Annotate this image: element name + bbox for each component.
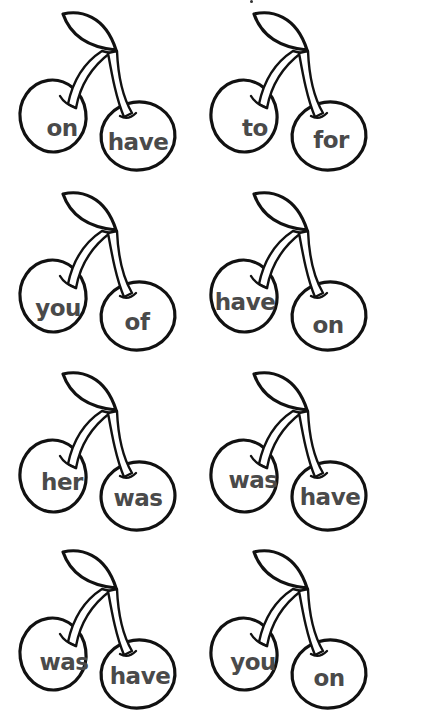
right-cherry-word: have <box>300 486 361 509</box>
left-cherry-word: was <box>40 651 89 674</box>
cherry-icon <box>0 0 200 180</box>
right-cherry-word: of <box>125 311 150 334</box>
left-cherry-word: you <box>35 297 81 320</box>
right-cherry-word: have <box>108 131 169 154</box>
left-cherry-word: you <box>230 651 276 674</box>
left-cherry-word: on <box>46 117 77 140</box>
cherry-pair-2: to for <box>191 0 391 180</box>
cherry-pair-7: was have <box>0 538 200 718</box>
cherry-pair-1: on have <box>0 0 200 180</box>
cherry-pair-4: have on <box>191 180 391 360</box>
cherry-icon <box>191 180 391 360</box>
left-cherry-word: to <box>242 117 268 140</box>
cherry-icon <box>0 360 200 540</box>
left-cherry-word: have <box>215 291 276 314</box>
cherry-icon <box>0 538 200 718</box>
cherry-pair-8: you on <box>191 538 391 718</box>
left-cherry-word: her <box>41 471 83 494</box>
right-cherry-word: on <box>312 314 343 337</box>
cherry-icon <box>191 0 391 180</box>
left-cherry-word: was <box>229 469 278 492</box>
cherry-pair-5: her was <box>0 360 200 540</box>
right-cherry-word: was <box>114 487 163 510</box>
right-cherry-word: have <box>110 665 171 688</box>
cherry-pair-6: was have <box>191 360 391 540</box>
cherry-icon <box>0 180 200 360</box>
cherry-pair-3: you of <box>0 180 200 360</box>
right-cherry-word: on <box>313 667 344 690</box>
cherry-icon <box>191 538 391 718</box>
cherry-icon <box>191 360 391 540</box>
right-cherry-word: for <box>313 129 349 152</box>
